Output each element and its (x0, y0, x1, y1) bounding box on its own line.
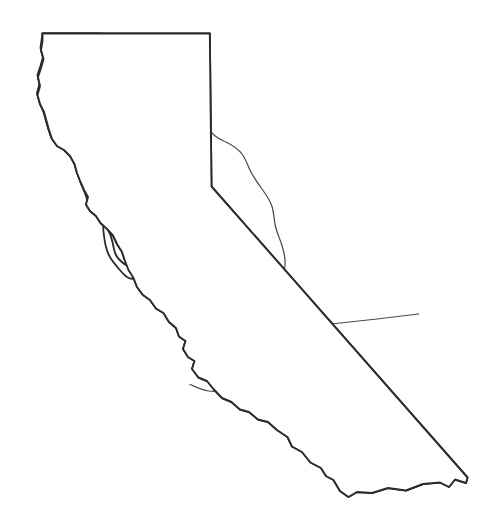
california-map-figure: California State Outline Map Outline map… (0, 0, 496, 527)
california-map-svg: California State Outline Map Outline map… (0, 0, 496, 527)
